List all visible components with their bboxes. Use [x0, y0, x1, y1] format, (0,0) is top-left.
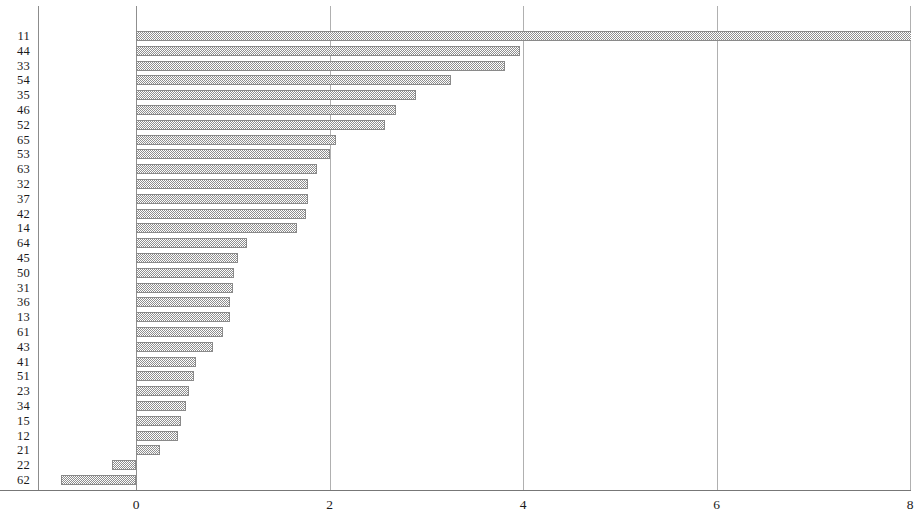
bar-34: [136, 401, 186, 411]
y-axis-label-51: 51: [0, 370, 30, 382]
bar-41: [136, 357, 196, 367]
bar-50: [136, 268, 234, 278]
x-tick-label-4: 4: [503, 497, 543, 513]
bar-43: [136, 342, 213, 352]
y-axis-label-22: 22: [0, 459, 30, 471]
x-axis-line: [0, 490, 911, 491]
bar-45: [136, 253, 238, 263]
gridline-x-4: [523, 6, 524, 490]
bar-35: [136, 90, 416, 100]
plot-area: [38, 0, 911, 490]
bar-22: [112, 460, 136, 470]
y-axis-label-37: 37: [0, 193, 30, 205]
y-axis-label-14: 14: [0, 222, 30, 234]
y-axis-label-23: 23: [0, 385, 30, 397]
bar-61: [136, 327, 223, 337]
y-axis-label-21: 21: [0, 444, 30, 456]
y-axis-label-65: 65: [0, 134, 30, 146]
y-axis-label-53: 53: [0, 148, 30, 160]
x-tick-label-2: 2: [310, 497, 350, 513]
x-tick-label-0: 0: [116, 497, 156, 513]
y-axis-label-63: 63: [0, 163, 30, 175]
bar-64: [136, 238, 247, 248]
y-axis-label-52: 52: [0, 119, 30, 131]
x-tick-label-8: 8: [890, 497, 918, 513]
bar-12: [136, 431, 178, 441]
y-axis-label-54: 54: [0, 74, 30, 86]
bar-21: [136, 445, 160, 455]
bar-62: [61, 475, 136, 485]
bar-37: [136, 194, 308, 204]
bar-54: [136, 75, 451, 85]
bar-32: [136, 179, 308, 189]
y-axis-label-61: 61: [0, 326, 30, 338]
bar-44: [136, 46, 520, 56]
bar-11: [136, 31, 911, 41]
bar-53: [136, 149, 330, 159]
y-axis-label-31: 31: [0, 282, 30, 294]
bar-63: [136, 164, 317, 174]
gridline-x-8: [910, 6, 911, 490]
gridline-x-6: [717, 6, 718, 490]
y-axis-label-34: 34: [0, 400, 30, 412]
y-axis-label-64: 64: [0, 237, 30, 249]
y-axis-label-12: 12: [0, 430, 30, 442]
bar-51: [136, 371, 194, 381]
bar-33: [136, 61, 505, 71]
y-axis-label-42: 42: [0, 208, 30, 220]
x-tick-label-6: 6: [697, 497, 737, 513]
y-axis-label-33: 33: [0, 60, 30, 72]
bar-46: [136, 105, 396, 115]
bar-23: [136, 386, 189, 396]
y-axis-label-50: 50: [0, 267, 30, 279]
bar-52: [136, 120, 385, 130]
bar-14: [136, 223, 297, 233]
y-axis-label-32: 32: [0, 178, 30, 190]
y-axis-label-35: 35: [0, 89, 30, 101]
y-axis-label-36: 36: [0, 296, 30, 308]
y-axis-label-46: 46: [0, 104, 30, 116]
bar-42: [136, 209, 306, 219]
y-axis-label-41: 41: [0, 356, 30, 368]
y-axis-label-13: 13: [0, 311, 30, 323]
y-axis-label-62: 62: [0, 474, 30, 486]
y-axis-label-44: 44: [0, 45, 30, 57]
bar-15: [136, 416, 181, 426]
y-axis-label-43: 43: [0, 341, 30, 353]
bar-65: [136, 135, 336, 145]
y-axis-label-45: 45: [0, 252, 30, 264]
bar-36: [136, 297, 230, 307]
y-axis-label-11: 11: [0, 30, 30, 42]
y-axis-label-15: 15: [0, 415, 30, 427]
bar-13: [136, 312, 230, 322]
bar-31: [136, 283, 233, 293]
y-axis-label-column: 1144335435465265536332374214644550313613…: [0, 0, 38, 528]
